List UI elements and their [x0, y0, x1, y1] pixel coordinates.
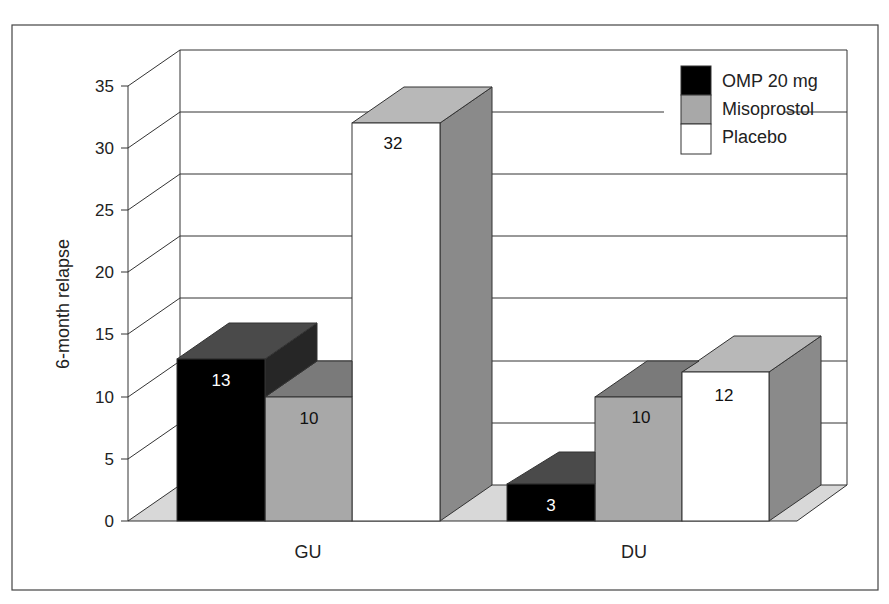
legend-swatch-omp	[681, 66, 711, 95]
x-category-gu: GU	[295, 542, 322, 562]
y-tick-5: 5	[105, 450, 114, 469]
y-tick-15: 15	[95, 325, 114, 344]
value-label-gu-placebo: 32	[384, 134, 403, 153]
y-tick-35: 35	[95, 77, 114, 96]
x-category-du: DU	[621, 542, 647, 562]
legend-label-omp: OMP 20 mg	[722, 71, 818, 91]
y-axis-label: 6-month relapse	[53, 239, 73, 369]
bar-gu-placebo-side	[440, 87, 492, 521]
value-label-du-misoprostol: 10	[632, 408, 651, 427]
y-tick-25: 25	[95, 201, 114, 220]
legend-swatch-misoprostol	[681, 95, 711, 124]
bar-gu-placebo	[352, 123, 440, 521]
legend-label-misoprostol: Misoprostol	[722, 99, 814, 119]
value-label-gu-omp: 13	[212, 371, 231, 390]
y-tick-0: 0	[105, 512, 114, 531]
y-tick-30: 30	[95, 139, 114, 158]
value-label-gu-misoprostol: 10	[300, 409, 319, 428]
legend-label-placebo: Placebo	[722, 127, 787, 147]
legend-swatch-placebo	[681, 124, 711, 154]
y-tick-20: 20	[95, 263, 114, 282]
chart: 0 5 10 15 20 25 30 35 6-month relapse	[0, 0, 889, 604]
value-label-du-placebo: 12	[715, 386, 734, 405]
value-label-du-omp: 3	[546, 496, 555, 515]
y-tick-10: 10	[95, 388, 114, 407]
